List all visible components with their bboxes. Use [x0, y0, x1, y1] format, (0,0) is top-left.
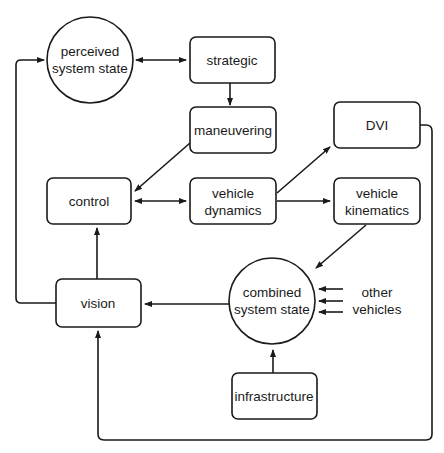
node-combined-system-state[interactable]: combined system state: [229, 258, 315, 344]
node-strategic[interactable]: strategic: [190, 37, 275, 83]
label-strategic: strategic: [206, 53, 257, 68]
node-maneuvering[interactable]: maneuvering: [190, 107, 276, 153]
label-other-line2: vehicles: [353, 302, 402, 317]
label-control: control: [69, 194, 110, 209]
node-perceived-system-state[interactable]: perceived system state: [47, 17, 133, 103]
label-dynamics-line1: vehicle: [212, 186, 254, 201]
label-vision: vision: [81, 296, 116, 311]
label-dynamics-line2: dynamics: [204, 203, 261, 218]
label-other-line1: other: [362, 285, 393, 300]
label-infrastructure: infrastructure: [235, 389, 314, 404]
label-dvi: DVI: [366, 118, 389, 133]
edge-kinematics-combined: [316, 225, 366, 268]
edge-dynamics-dvi: [277, 147, 330, 193]
label-kinematics-line1: vehicle: [356, 186, 398, 201]
node-infrastructure[interactable]: infrastructure: [232, 373, 317, 419]
label-maneuvering: maneuvering: [194, 123, 272, 138]
node-control[interactable]: control: [47, 178, 131, 224]
node-other-vehicles: other vehicles: [353, 285, 402, 317]
node-vehicle-kinematics[interactable]: vehicle kinematics: [334, 178, 420, 224]
label-combined-line2: system state: [234, 302, 310, 317]
label-perceived-line2: system state: [52, 61, 128, 76]
label-kinematics-line2: kinematics: [345, 203, 409, 218]
label-perceived-line1: perceived: [61, 44, 120, 59]
label-combined-line1: combined: [243, 285, 302, 300]
node-vision[interactable]: vision: [56, 279, 141, 327]
edge-maneuvering-control: [135, 143, 190, 191]
node-vehicle-dynamics[interactable]: vehicle dynamics: [190, 178, 276, 224]
node-dvi[interactable]: DVI: [334, 102, 420, 148]
driving-task-diagram: perceived system state strategic maneuve…: [0, 0, 444, 453]
